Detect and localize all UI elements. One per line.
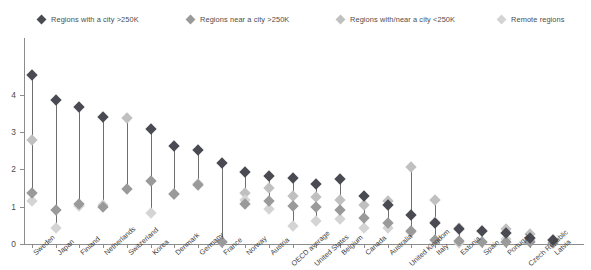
y-tick-mark <box>20 169 24 170</box>
y-tick-label: 0 <box>2 240 16 248</box>
x-tick-mark <box>293 244 294 248</box>
legend-item-label: Remote regions <box>511 16 565 23</box>
data-point-marker[interactable] <box>334 173 345 184</box>
data-point-marker[interactable] <box>240 167 251 178</box>
data-point-marker[interactable] <box>26 188 37 199</box>
data-point-marker[interactable] <box>334 204 345 215</box>
data-point-marker[interactable] <box>429 194 440 205</box>
data-point-marker[interactable] <box>145 176 156 187</box>
data-point-marker[interactable] <box>263 182 274 193</box>
data-point-marker[interactable] <box>169 188 180 199</box>
x-tick-mark <box>411 244 412 248</box>
legend-item-label: Regions with/near a city <250K <box>350 16 455 23</box>
data-point-marker[interactable] <box>50 94 61 105</box>
data-point-marker[interactable] <box>97 112 108 123</box>
diamond-marker-icon <box>336 15 346 25</box>
diamond-marker-icon <box>497 15 507 25</box>
x-axis-label: Austria <box>269 236 290 256</box>
data-point-marker[interactable] <box>74 102 85 113</box>
data-point-marker[interactable] <box>169 140 180 151</box>
legend-item-1[interactable]: Regions near a city >250K <box>187 16 289 23</box>
data-point-marker[interactable] <box>287 200 298 211</box>
x-axis-label: Canada <box>364 234 388 256</box>
diamond-marker-icon <box>37 15 47 25</box>
y-tick-label: 1 <box>2 203 16 211</box>
data-point-marker[interactable] <box>406 209 417 220</box>
data-point-marker[interactable] <box>311 215 322 226</box>
y-tick-mark <box>20 244 24 245</box>
range-stem <box>151 129 152 213</box>
data-point-marker[interactable] <box>50 222 61 233</box>
range-stem <box>127 118 128 189</box>
y-tick-mark <box>20 207 24 208</box>
data-point-marker[interactable] <box>26 70 37 81</box>
data-point-marker[interactable] <box>287 172 298 183</box>
y-axis-line <box>24 38 25 244</box>
x-tick-mark <box>151 244 152 248</box>
data-point-marker[interactable] <box>477 226 488 237</box>
y-tick-label: 3 <box>2 128 16 136</box>
data-point-marker[interactable] <box>121 112 132 123</box>
data-point-marker[interactable] <box>287 221 298 232</box>
y-tick-label: 2 <box>2 165 16 173</box>
data-point-marker[interactable] <box>121 183 132 194</box>
data-point-marker[interactable] <box>50 204 61 215</box>
diamond-marker-icon <box>186 15 196 25</box>
data-point-marker[interactable] <box>192 144 203 155</box>
data-point-marker[interactable] <box>26 135 37 146</box>
data-point-marker[interactable] <box>358 190 369 201</box>
legend-item-3[interactable]: Remote regions <box>498 16 565 23</box>
range-stem <box>174 146 175 194</box>
data-point-marker[interactable] <box>263 195 274 206</box>
x-tick-mark <box>388 244 389 248</box>
data-point-marker[interactable] <box>358 223 369 234</box>
x-axis-label: Finland <box>79 235 101 256</box>
legend-item-2[interactable]: Regions with/near a city <250K <box>337 16 455 23</box>
range-stem <box>103 117 104 207</box>
data-point-marker[interactable] <box>358 212 369 223</box>
plot-area: 01234 SwedenJapanFinlandNetherlandsSwitz… <box>0 32 591 270</box>
legend-item-0[interactable]: Regions with a city >250K <box>38 16 139 23</box>
data-point-marker[interactable] <box>145 123 156 134</box>
chart-container: Regions with a city >250KRegions near a … <box>0 0 591 270</box>
y-tick-mark <box>20 95 24 96</box>
range-stem <box>411 167 412 232</box>
chart-legend: Regions with a city >250KRegions near a … <box>0 14 591 32</box>
data-point-marker[interactable] <box>311 201 322 212</box>
range-stem <box>79 107 80 206</box>
x-axis-label: Norway <box>245 235 268 257</box>
y-tick-mark <box>20 132 24 133</box>
y-tick-label: 4 <box>2 91 16 99</box>
data-point-marker[interactable] <box>263 170 274 181</box>
data-point-marker[interactable] <box>216 158 227 169</box>
data-point-marker[interactable] <box>145 208 156 219</box>
data-point-marker[interactable] <box>311 191 322 202</box>
x-axis-label: Korea <box>151 238 170 256</box>
data-point-marker[interactable] <box>311 179 322 190</box>
data-point-marker[interactable] <box>406 161 417 172</box>
x-axis-label: Japan <box>56 238 75 256</box>
range-stem <box>222 163 223 241</box>
legend-item-label: Regions with a city >250K <box>51 16 139 23</box>
legend-item-label: Regions near a city >250K <box>200 16 289 23</box>
